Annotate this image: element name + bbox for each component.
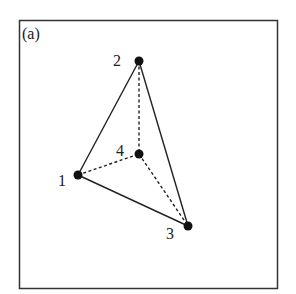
node-4 — [135, 150, 144, 159]
node-1 — [74, 171, 83, 180]
edges — [78, 61, 188, 226]
node-label-1: 1 — [58, 172, 66, 189]
edge-1-2 — [78, 61, 139, 175]
node-2 — [135, 57, 144, 66]
nodes — [74, 57, 193, 231]
frame-border — [20, 21, 278, 289]
node-label-2: 2 — [113, 52, 121, 69]
edge-1-3 — [78, 175, 188, 226]
panel-label: (a) — [22, 25, 40, 43]
tetrahedron-diagram: (a) 1 2 3 4 — [0, 0, 296, 294]
node-label-4: 4 — [116, 142, 124, 159]
edge-2-3 — [139, 61, 188, 226]
node-3 — [184, 222, 193, 231]
node-label-3: 3 — [166, 225, 174, 242]
